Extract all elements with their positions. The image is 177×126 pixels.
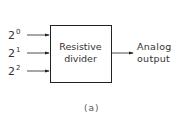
block-label-line1: Resistive [50,41,111,53]
input-label-2-1: 21 [8,46,20,60]
figure-caption: (a) [84,103,100,113]
input-label-2-2: 22 [8,64,20,78]
input-label-2-0: 20 [8,28,20,42]
output-label: Analog output [137,41,172,65]
output-label-line1: Analog [137,41,172,53]
output-label-line2: output [137,53,172,65]
block-label: Resistive divider [50,41,111,65]
block-label-line2: divider [50,53,111,65]
